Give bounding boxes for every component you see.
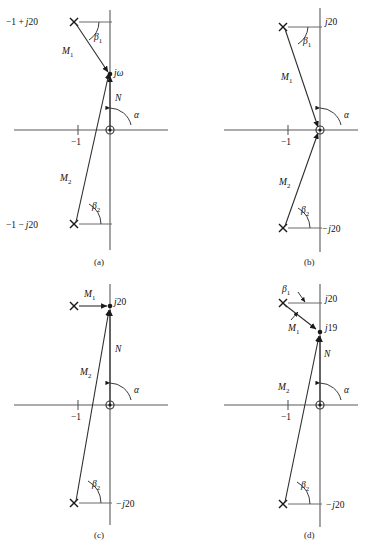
panel-b-label-alpha: α	[344, 110, 350, 120]
panel-a-label-beta1: β1	[93, 32, 102, 44]
panel-b-caption: (b)	[304, 257, 315, 267]
panel-a-arc-alpha	[110, 108, 131, 125]
panel-d-beta1-tick	[291, 312, 298, 320]
panel-b: j20 −j20 −1 M1 M2 β1 β2 α (b)	[224, 8, 358, 267]
panel-b-label-beta2: β2	[300, 205, 310, 217]
panel-b-label-minus-j20: −j20	[322, 224, 341, 234]
panel-c-origin-dot	[108, 403, 111, 406]
panel-b-origin-dot	[318, 128, 321, 131]
panel-a-origin-dot	[108, 128, 111, 131]
panel-d-label-alpha: α	[344, 385, 350, 395]
panel-a-test-point	[108, 72, 113, 77]
panel-d-label-beta2: β2	[300, 480, 310, 492]
panel-a-label-test-point: jω	[112, 68, 124, 78]
panel-d-pole-lower-marker	[279, 500, 287, 508]
panel-a-label-alpha: α	[134, 110, 140, 120]
panel-d-label-minus-j20: −j20	[326, 500, 345, 510]
panel-a-label-minus-one: −1	[71, 137, 81, 147]
panel-c-label-beta2: β2	[91, 479, 101, 491]
panel-c-arc-alpha	[110, 383, 131, 400]
panel-c-test-point	[108, 304, 113, 309]
panel-d-label-M1: M1	[287, 323, 299, 335]
panel-a-label-N: N	[114, 93, 122, 103]
panel-c-pole-lower-marker	[70, 499, 78, 507]
panel-a-label-M2: M2	[59, 173, 72, 185]
panel-c-label-minus-j20: −j20	[116, 499, 135, 509]
panel-a-pole-lower-marker	[70, 220, 78, 228]
panel-a-label-M1: M1	[61, 46, 73, 58]
panel-c-label-minus-one: −1	[71, 412, 81, 422]
panel-c-caption: (c)	[94, 530, 104, 540]
panel-b-label-minus-one: −1	[281, 137, 291, 147]
panel-d-beta1-leader	[298, 292, 305, 302]
panel-d-label-beta1: β1	[281, 284, 290, 296]
panel-d-test-point	[318, 330, 323, 335]
panel-d-caption: (d)	[304, 530, 315, 540]
panel-b-label-j20: j20	[323, 17, 337, 27]
panel-b-label-M1: M1	[280, 72, 292, 84]
panel-b-label-beta1: β1	[302, 36, 311, 48]
panel-c-label-alpha: α	[134, 385, 140, 395]
panel-a-label-pole-lower: −1 −j20	[6, 220, 38, 230]
panel-d-label-j19: j19	[323, 323, 337, 333]
panel-d-origin-dot	[318, 403, 321, 406]
panel-a-caption: (a)	[94, 257, 104, 267]
panel-a-vector-M1	[76, 24, 108, 72]
panel-d-label-minus-one: −1	[281, 412, 291, 422]
panel-c-label-j20: j20	[112, 297, 126, 307]
panel-c-label-M1: M1	[83, 289, 95, 301]
panel-c: j20 −j20 −1 N M1 M2 β2 α (c)	[14, 284, 168, 540]
panel-c-pole-upper-marker	[70, 302, 78, 310]
panel-d: j20 j19 −j20 −1 N M1 M2 β1 β2 α (d)	[224, 284, 358, 540]
panel-c-label-N: N	[114, 344, 122, 354]
panel-a-vector-M2	[76, 73, 109, 222]
s-plane-vector-figure: −1 +j20 −1 −j20 jω −1 N M1 M2 β1 β2 α (a…	[0, 0, 367, 550]
figure-root: −1 +j20 −1 −j20 jω −1 N M1 M2 β1 β2 α (a…	[0, 0, 367, 550]
panel-d-label-M2: M2	[277, 382, 290, 394]
panel-d-label-N: N	[323, 349, 331, 359]
panel-c-label-M2: M2	[79, 367, 92, 379]
panel-d-label-j20: j20	[323, 294, 337, 304]
panel-a-label-beta2: β2	[91, 201, 101, 213]
panel-a-label-pole-upper: −1 +j20	[6, 17, 38, 27]
panel-d-arc-alpha	[320, 383, 341, 400]
panel-a: −1 +j20 −1 −j20 jω −1 N M1 M2 β1 β2 α (a…	[6, 10, 168, 267]
panel-b-arc-alpha	[320, 108, 341, 125]
panel-b-label-M2: M2	[278, 177, 291, 189]
